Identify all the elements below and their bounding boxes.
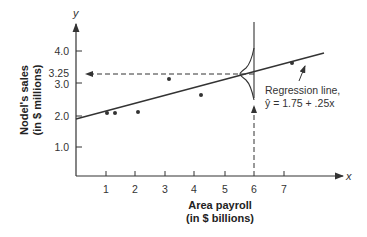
y-tick-label: 3.0 — [54, 78, 69, 90]
data-point — [167, 77, 171, 81]
x-tick-label: 6 — [251, 183, 257, 195]
x-tick-label: 2 — [132, 183, 138, 195]
x-tick-label: 1 — [103, 183, 109, 195]
x-tick-label: 7 — [281, 183, 287, 195]
data-point — [136, 110, 140, 114]
x-tick-label: 3 — [162, 183, 168, 195]
y-axis-letter: y — [72, 7, 80, 19]
data-point — [199, 93, 203, 97]
y-axis-title-line2: (in $ millions) — [31, 64, 43, 135]
data-point — [113, 111, 117, 115]
regression-chart: y x 1.0 2.0 3.0 3.25 4.0 1 2 3 4 5 6 7 A… — [0, 0, 367, 237]
regression-label-line1: Regression line, — [265, 84, 340, 96]
x-axis-letter: x — [345, 170, 352, 182]
data-point — [105, 111, 109, 115]
regression-label-line2: ŷ = 1.75 + .25x — [265, 97, 335, 109]
x-tick-label: 4 — [191, 183, 197, 195]
x-ticks: 1 2 3 4 5 6 7 — [103, 171, 287, 195]
data-point — [290, 61, 294, 65]
y-ticks: 1.0 2.0 3.0 3.25 4.0 — [49, 45, 82, 153]
x-axis-title-line1: Area payroll — [188, 199, 252, 211]
y-axis-title: Nodel's sales (in $ millions) — [18, 64, 43, 135]
y-tick-label: 1.0 — [54, 141, 69, 153]
x-axis-title-line2: (in $ billions) — [186, 212, 254, 224]
y-axis-title-line1: Nodel's sales — [18, 65, 30, 135]
y-tick-label: 2.0 — [54, 110, 69, 122]
x-tick-label: 5 — [222, 183, 228, 195]
annotation-arrow — [299, 66, 305, 81]
y-tick-label: 3.25 — [49, 67, 70, 79]
y-tick-label: 4.0 — [54, 45, 69, 57]
